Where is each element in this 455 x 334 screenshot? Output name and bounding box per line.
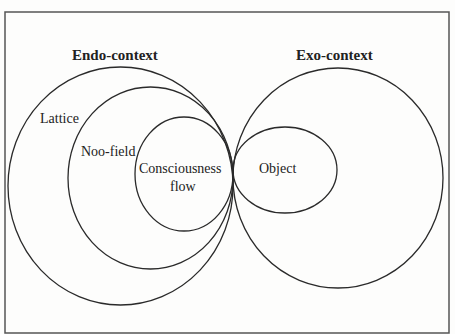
noo-field-label: Noo-field xyxy=(81,144,135,159)
exo-context-title: Exo-context xyxy=(296,47,373,63)
exo-context-circle xyxy=(233,68,443,288)
endo-context-title: Endo-context xyxy=(72,47,158,63)
consciousness-label-line2: flow xyxy=(170,179,197,194)
consciousness-label-line1: Consciousness xyxy=(139,161,221,176)
object-label: Object xyxy=(259,161,296,176)
lattice-circle xyxy=(8,67,233,305)
diagram-canvas: Endo-context Exo-context Lattice Noo-fie… xyxy=(0,0,455,334)
noo-field-circle xyxy=(68,87,233,269)
lattice-label: Lattice xyxy=(40,111,79,126)
